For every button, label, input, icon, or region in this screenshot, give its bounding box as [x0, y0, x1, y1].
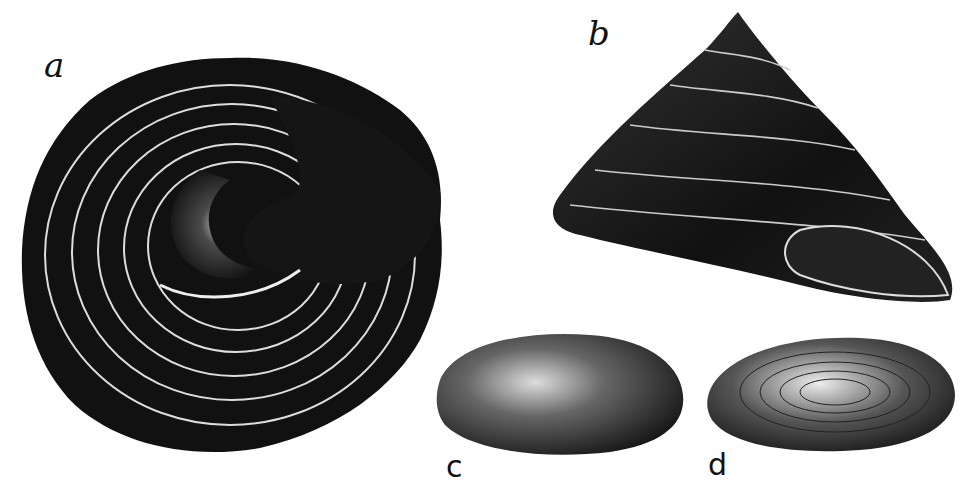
- shell-c: [437, 334, 684, 455]
- label-a: a: [44, 48, 64, 82]
- label-c: c: [446, 452, 463, 482]
- shell-illustration: [0, 0, 978, 494]
- shell-plate: [0, 0, 978, 494]
- label-d: d: [708, 450, 727, 480]
- shell-b: [553, 12, 952, 302]
- shell-a: [22, 58, 442, 452]
- shell-d: [707, 338, 955, 452]
- label-b: b: [588, 16, 610, 50]
